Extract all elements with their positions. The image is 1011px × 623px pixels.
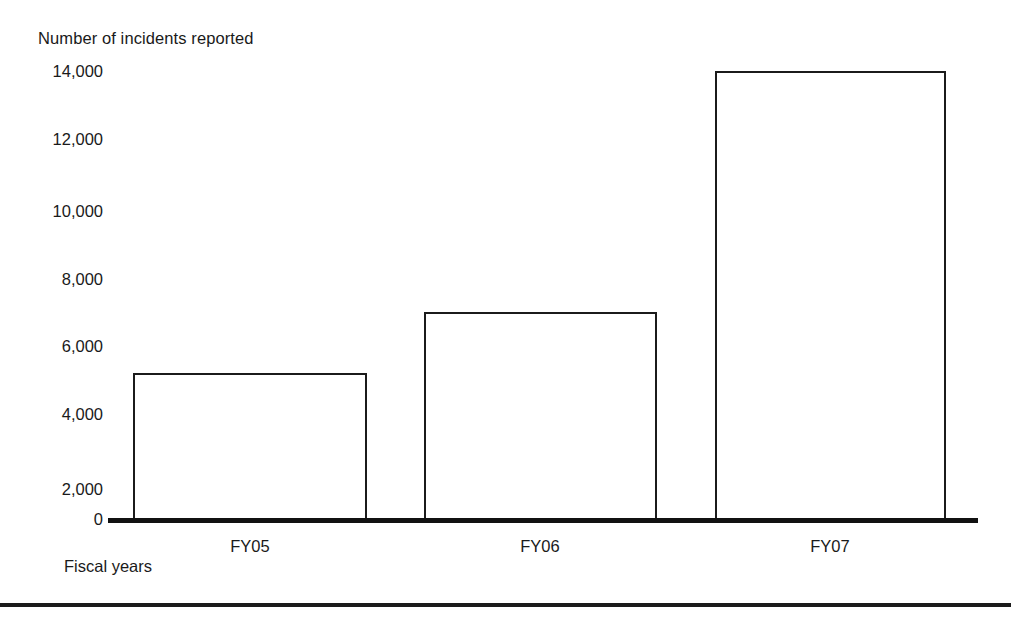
x-axis-tick-label-fy06: FY06 xyxy=(470,536,610,556)
bar-fy05[interactable] xyxy=(133,373,367,521)
y-axis-tick-label-10000: 10,000 xyxy=(0,202,103,221)
x-axis-tick-label-fy07: FY07 xyxy=(760,536,900,556)
chart-page: Number of incidents reported 14,000 12,0… xyxy=(0,0,1011,623)
y-axis-tick-label-6000: 6,000 xyxy=(0,337,103,356)
x-axis-line xyxy=(108,518,978,523)
bar-fy06[interactable] xyxy=(424,312,657,521)
y-axis-tick-label-2000: 2,000 xyxy=(0,480,103,499)
y-axis-tick-label-12000: 12,000 xyxy=(0,130,103,149)
bar-fy07[interactable] xyxy=(715,71,946,521)
y-axis-tick-label-8000: 8,000 xyxy=(0,270,103,289)
x-axis-title: Fiscal years xyxy=(64,556,152,576)
y-axis-title: Number of incidents reported xyxy=(38,28,254,48)
y-axis-tick-label-4000: 4,000 xyxy=(0,405,103,424)
y-axis-tick-label-14000: 14,000 xyxy=(0,62,103,81)
bar-chart: Number of incidents reported 14,000 12,0… xyxy=(0,0,1011,623)
footer-rule xyxy=(0,603,1011,607)
y-axis-tick-label-0: 0 xyxy=(0,510,103,529)
x-axis-tick-label-fy05: FY05 xyxy=(180,536,320,556)
